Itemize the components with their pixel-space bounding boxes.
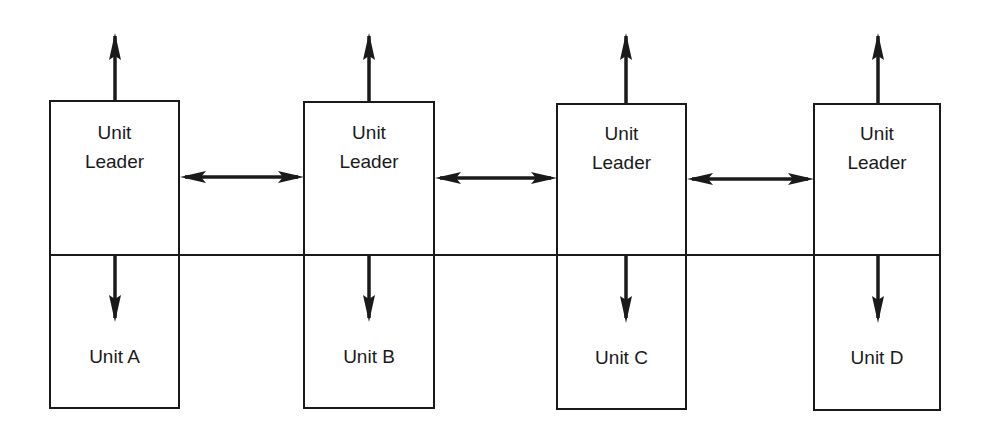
up-arrow-icon xyxy=(872,33,884,104)
leader-line2: Leader xyxy=(51,147,178,176)
unit-leader-label: Unit Leader xyxy=(305,118,433,176)
unit-label: Unit C xyxy=(558,347,685,369)
leader-line2: Leader xyxy=(305,147,433,176)
leader-line2: Leader xyxy=(558,148,685,177)
linking-pin-diagram: Unit Leader Unit A Unit Leader Unit B Un… xyxy=(0,0,988,444)
bidirectional-arrow-icon xyxy=(180,171,304,183)
up-arrow-icon xyxy=(620,33,632,104)
unit-label: Unit D xyxy=(815,347,939,369)
unit-a-column: Unit Leader Unit A xyxy=(49,100,180,409)
leader-line1: Unit xyxy=(815,119,939,148)
up-arrow-icon xyxy=(109,33,121,101)
unit-label: Unit B xyxy=(305,346,433,368)
unit-leader-label: Unit Leader xyxy=(558,119,685,177)
unit-d-column: Unit Leader Unit D xyxy=(813,103,941,411)
unit-b-column: Unit Leader Unit B xyxy=(303,101,435,409)
leader-line1: Unit xyxy=(305,118,433,147)
up-arrow-icon xyxy=(363,33,375,102)
leader-line1: Unit xyxy=(51,118,178,147)
unit-leader-label: Unit Leader xyxy=(51,118,178,176)
leader-line1: Unit xyxy=(558,119,685,148)
leader-line2: Leader xyxy=(815,148,939,177)
bidirectional-arrow-icon xyxy=(435,172,557,184)
bidirectional-arrow-icon xyxy=(687,173,814,185)
unit-leader-label: Unit Leader xyxy=(815,119,939,177)
unit-c-column: Unit Leader Unit C xyxy=(556,103,687,410)
unit-label: Unit A xyxy=(51,346,178,368)
